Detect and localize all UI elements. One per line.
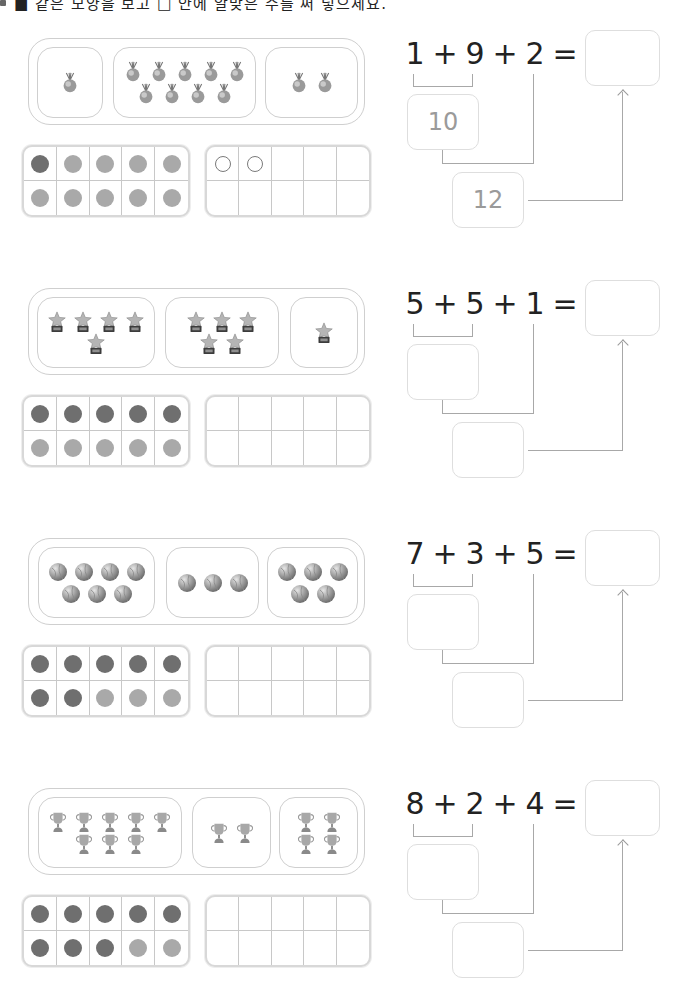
- second-sum-box[interactable]: [452, 672, 524, 728]
- ten-frame-cell[interactable]: [207, 647, 239, 681]
- ten-frame-cell[interactable]: [24, 147, 57, 181]
- ten-frame-cell[interactable]: [122, 897, 155, 931]
- ten-frame-cell[interactable]: [337, 681, 369, 715]
- final-answer-box[interactable]: [585, 530, 660, 586]
- ten-frame-cell[interactable]: [24, 931, 57, 965]
- ten-frame-cell[interactable]: [304, 431, 336, 465]
- ten-frame-cell[interactable]: [304, 147, 336, 181]
- ten-frame-cell[interactable]: [272, 647, 304, 681]
- ten-frame-cell[interactable]: [207, 397, 239, 431]
- ten-frame-cell[interactable]: [24, 181, 57, 215]
- ten-frame-cell[interactable]: [304, 931, 336, 965]
- ten-frame-cell[interactable]: [239, 681, 271, 715]
- ten-frame-cell[interactable]: [207, 431, 239, 465]
- ten-frame-cell[interactable]: [239, 181, 271, 215]
- ten-frame-cell[interactable]: [272, 431, 304, 465]
- ten-frame-cell[interactable]: [90, 897, 123, 931]
- ten-frame-cell[interactable]: [239, 397, 271, 431]
- ten-frame-cell[interactable]: [337, 431, 369, 465]
- ten-frame-cell[interactable]: [207, 147, 239, 181]
- ten-frame-cell[interactable]: [155, 397, 188, 431]
- ten-frame-cell[interactable]: [337, 181, 369, 215]
- first-sum-box[interactable]: 10: [407, 94, 479, 150]
- equals-sign: =: [547, 286, 583, 321]
- ten-frame-cell[interactable]: [24, 647, 57, 681]
- ten-frame-cell[interactable]: [155, 647, 188, 681]
- ten-frame-cell[interactable]: [90, 681, 123, 715]
- ten-frame-cell[interactable]: [272, 681, 304, 715]
- equation: 1+9+2=: [403, 36, 583, 71]
- first-sum-box[interactable]: [407, 344, 479, 400]
- ten-frame-cell[interactable]: [57, 681, 90, 715]
- ten-frame-cell[interactable]: [239, 647, 271, 681]
- ten-frame-cell[interactable]: [337, 147, 369, 181]
- ten-frame-cell[interactable]: [122, 681, 155, 715]
- ten-frame-cell[interactable]: [272, 897, 304, 931]
- plus-sign: +: [487, 36, 523, 71]
- ten-frame-cell[interactable]: [57, 181, 90, 215]
- ten-frame-cell[interactable]: [304, 181, 336, 215]
- ten-frame-cell[interactable]: [122, 647, 155, 681]
- ten-frame-cell[interactable]: [90, 181, 123, 215]
- ten-frame-cell[interactable]: [24, 897, 57, 931]
- ten-frame-cell[interactable]: [337, 931, 369, 965]
- ten-frame-cell[interactable]: [57, 397, 90, 431]
- ten-frame-cell[interactable]: [337, 397, 369, 431]
- ten-frame-cell[interactable]: [57, 897, 90, 931]
- ten-frame-cell[interactable]: [155, 431, 188, 465]
- ten-frame-cell[interactable]: [90, 647, 123, 681]
- ten-frame-cell[interactable]: [272, 181, 304, 215]
- ten-frame-cell[interactable]: [239, 897, 271, 931]
- ten-frame-cell[interactable]: [122, 931, 155, 965]
- ten-frame-cell[interactable]: [239, 431, 271, 465]
- ten-frame-cell[interactable]: [57, 431, 90, 465]
- ten-frame-cell[interactable]: [272, 147, 304, 181]
- ten-frame-cell[interactable]: [207, 181, 239, 215]
- ten-frame-cell[interactable]: [207, 897, 239, 931]
- ten-frame-cell[interactable]: [239, 147, 271, 181]
- ten-frame-cell[interactable]: [207, 681, 239, 715]
- second-sum-box[interactable]: [452, 422, 524, 478]
- final-answer-box[interactable]: [585, 780, 660, 836]
- ten-frame-cell[interactable]: [90, 147, 123, 181]
- ten-frame-cell[interactable]: [155, 147, 188, 181]
- filled-circle-icon: [96, 189, 114, 207]
- ten-frame-cell[interactable]: [239, 931, 271, 965]
- ten-frame-cell[interactable]: [304, 681, 336, 715]
- ten-frame-cell[interactable]: [155, 931, 188, 965]
- ten-frame-cell[interactable]: [122, 181, 155, 215]
- ten-frame-cell[interactable]: [90, 397, 123, 431]
- ten-frame-cell[interactable]: [337, 647, 369, 681]
- ten-frame-cell[interactable]: [122, 431, 155, 465]
- ten-frame-cell[interactable]: [57, 647, 90, 681]
- ten-frame-cell[interactable]: [24, 681, 57, 715]
- ten-frame-cell[interactable]: [155, 181, 188, 215]
- cup-trophy-icon: [235, 823, 255, 843]
- ten-frame-cell[interactable]: [57, 147, 90, 181]
- final-answer-box[interactable]: [585, 30, 660, 86]
- filled-circle-icon: [163, 405, 181, 423]
- ten-frame-cell[interactable]: [24, 397, 57, 431]
- cup-trophy-icon: [209, 823, 229, 843]
- ten-frame-cell[interactable]: [207, 931, 239, 965]
- ten-frame-cell[interactable]: [304, 647, 336, 681]
- ten-frame-cell[interactable]: [155, 897, 188, 931]
- ten-frame-cell[interactable]: [90, 431, 123, 465]
- second-sum-box[interactable]: [452, 922, 524, 978]
- ten-frame-cell[interactable]: [304, 897, 336, 931]
- ten-frame-cell[interactable]: [337, 897, 369, 931]
- ten-frame-cell[interactable]: [57, 931, 90, 965]
- ten-frame-cell[interactable]: [304, 397, 336, 431]
- ten-frame-cell[interactable]: [24, 431, 57, 465]
- cup-trophy-icon: [152, 812, 172, 832]
- ten-frame-cell[interactable]: [155, 681, 188, 715]
- final-answer-box[interactable]: [585, 280, 660, 336]
- ten-frame-cell[interactable]: [90, 931, 123, 965]
- ten-frame-cell[interactable]: [272, 931, 304, 965]
- first-sum-box[interactable]: [407, 844, 479, 900]
- ten-frame-cell[interactable]: [122, 147, 155, 181]
- ten-frame-cell[interactable]: [122, 397, 155, 431]
- second-sum-box[interactable]: 12: [452, 172, 524, 228]
- ten-frame-cell[interactable]: [272, 397, 304, 431]
- first-sum-box[interactable]: [407, 594, 479, 650]
